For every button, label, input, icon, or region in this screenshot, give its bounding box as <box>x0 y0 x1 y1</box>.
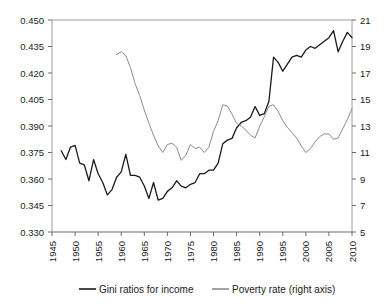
x-tick-label: 1980 <box>208 241 219 262</box>
y-tick-label-right: 11 <box>360 147 370 158</box>
series-line-gini <box>61 31 352 201</box>
x-tick-label: 1960 <box>116 241 127 262</box>
y-tick-label-left: 0.420 <box>20 68 44 79</box>
y-axis-right-ticks: 579111315171921 <box>352 15 371 238</box>
y-tick-label-right: 19 <box>360 41 371 52</box>
y-tick-label-left: 0.405 <box>20 94 44 105</box>
x-tick-label: 1945 <box>47 241 58 262</box>
y-tick-label-left: 0.330 <box>20 227 44 238</box>
legend-entry-poverty: Poverty rate (right axis) <box>212 284 335 295</box>
x-tick-label: 1950 <box>70 241 81 262</box>
x-tick-label: 1970 <box>162 241 173 262</box>
legend-label-poverty: Poverty rate (right axis) <box>232 284 335 295</box>
x-tick-label: 1975 <box>185 241 196 262</box>
x-tick-label: 1965 <box>139 241 150 262</box>
y-tick-label-right: 9 <box>360 174 365 185</box>
line-chart: 0.3300.3450.3600.3750.3900.4050.4200.435… <box>0 0 388 307</box>
y-tick-label-left: 0.435 <box>20 41 44 52</box>
plot-frame <box>52 20 352 232</box>
x-tick-label: 2010 <box>347 241 358 262</box>
legend-entry-gini: Gini ratios for income <box>79 284 194 295</box>
y-tick-label-left: 0.375 <box>20 147 44 158</box>
y-tick-label-right: 15 <box>360 94 371 105</box>
y-axis-left-ticks: 0.3300.3450.3600.3750.3900.4050.4200.435… <box>20 15 52 238</box>
series-line-poverty <box>117 52 352 161</box>
y-tick-label-right: 17 <box>360 68 371 79</box>
x-tick-label: 2000 <box>300 241 311 262</box>
chart-container: 0.3300.3450.3600.3750.3900.4050.4200.435… <box>0 0 388 307</box>
y-tick-label-left: 0.360 <box>20 174 44 185</box>
x-axis-ticks: 1945195019551960196519701975198019851990… <box>47 232 358 262</box>
legend-label-gini: Gini ratios for income <box>99 284 194 295</box>
y-tick-label-left: 0.390 <box>20 121 44 132</box>
x-tick-label: 1955 <box>93 241 104 262</box>
y-tick-label-right: 21 <box>360 15 371 26</box>
series-layer <box>61 31 352 201</box>
y-tick-label-left: 0.345 <box>20 200 44 211</box>
x-tick-label: 1995 <box>277 241 288 262</box>
y-tick-label-right: 7 <box>360 200 365 211</box>
y-tick-label-right: 13 <box>360 121 371 132</box>
x-tick-label: 1990 <box>254 241 265 262</box>
chart-legend: Gini ratios for income Poverty rate (rig… <box>0 278 388 307</box>
x-tick-label: 1985 <box>231 241 242 262</box>
y-tick-label-right: 5 <box>360 227 365 238</box>
y-tick-label-left: 0.450 <box>20 15 44 26</box>
x-tick-label: 2005 <box>323 241 334 262</box>
